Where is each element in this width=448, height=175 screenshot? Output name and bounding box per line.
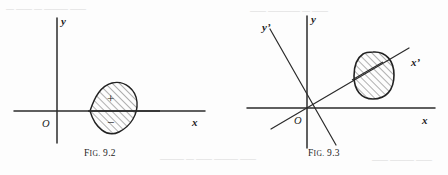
caption-number: 9.3: [327, 148, 340, 158]
fig-9-2-plus-sign: +: [107, 91, 114, 106]
figure-page: — —— — ——— —— —— ———— — —— ——— — —— ——— …: [0, 0, 448, 175]
fig-9-3-y-axis-label: y: [309, 13, 316, 25]
caption-smallcaps: IG.: [90, 149, 101, 158]
fig-9-3-origin-label: O: [294, 115, 302, 126]
fig-9-3-y-prime-axis-label: y’: [260, 21, 271, 33]
figure-9-2-drawing: y x O + − y x O y’ x’: [0, 0, 448, 175]
fig-9-2-origin-label: O: [42, 118, 50, 129]
fig-9-3-y-prime-axis: [270, 29, 336, 145]
figure-9-3-caption: FIG. 9.3: [308, 148, 340, 158]
fig-9-2-minus-sign: −: [107, 115, 114, 130]
caption-smallcaps: IG.: [314, 149, 325, 158]
fig-9-2-x-axis-label: x: [191, 116, 198, 128]
fig-9-3-x-prime-axis-label: x’: [410, 56, 421, 68]
fig-9-3-axes: [247, 16, 435, 148]
figure-9-2-caption: FIG. 9.2: [84, 148, 116, 158]
fig-9-2-y-axis-label: y: [59, 15, 66, 27]
fig-9-3-x-axis-label: x: [421, 114, 428, 126]
fig-9-2-region: [88, 82, 160, 133]
caption-number: 9.2: [103, 148, 116, 158]
fig-9-3-region: [352, 52, 394, 99]
